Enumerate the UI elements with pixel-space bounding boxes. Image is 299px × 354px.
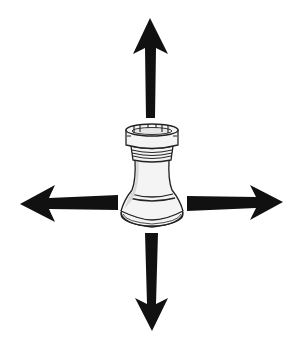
diagram-canvas xyxy=(0,0,299,354)
